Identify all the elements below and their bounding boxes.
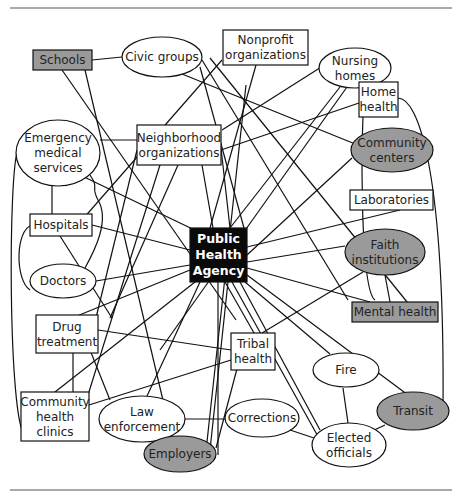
node-schools: Schools: [33, 50, 92, 70]
chc-label: health: [36, 410, 74, 424]
node-homehealth: Homehealth: [359, 82, 398, 117]
faith-label: institutions: [352, 253, 419, 267]
neighborhood-label: organizations: [139, 146, 220, 160]
node-ems: Emergencymedicalservices: [16, 120, 100, 186]
law-label: enforcement: [104, 420, 181, 434]
corrections-label: Corrections: [228, 411, 296, 425]
mental-label: Mental health: [354, 305, 437, 319]
node-corrections: Corrections: [225, 399, 299, 437]
network-diagram: SchoolsCivic groupsNonprofitorganization…: [0, 0, 464, 499]
edge-19: [93, 150, 137, 330]
neighborhood-label: Neighborhood: [137, 131, 222, 145]
node-transit: Transit: [377, 392, 449, 430]
node-drug: Drugtreatment: [36, 315, 98, 353]
node-commcenters: Communitycenters: [351, 128, 433, 172]
nonprofit-label: organizations: [225, 48, 306, 62]
node-fire: Fire: [313, 353, 379, 387]
node-labs: Laboratories: [350, 190, 433, 210]
tribal-label: Tribal: [236, 337, 269, 351]
node-civic: Civic groups: [122, 37, 202, 77]
schools-label: Schools: [39, 53, 85, 67]
node-nonprofit: Nonprofitorganizations: [223, 30, 308, 65]
pha-label: Public: [197, 231, 240, 246]
edge-10: [230, 87, 340, 228]
node-mental: Mental health: [352, 302, 438, 322]
edge-13: [80, 175, 205, 235]
elected-label: officials: [326, 446, 372, 460]
fire-label: Fire: [335, 363, 356, 377]
nursing-label: homes: [335, 69, 375, 83]
homehealth-label: Home: [361, 85, 396, 99]
edge-29: [247, 246, 345, 262]
labs-label: Laboratories: [354, 193, 429, 207]
hospitals-label: Hospitals: [33, 218, 88, 232]
ems-label: Emergency: [24, 131, 92, 145]
transit-label: Transit: [392, 404, 433, 418]
civic-label: Civic groups: [125, 50, 199, 64]
node-chc: Communityhealthclinics: [20, 392, 89, 441]
doctors-label: Doctors: [40, 274, 86, 288]
employers-label: Employers: [148, 447, 211, 461]
ems-label: medical: [34, 146, 81, 160]
node-hospitals: Hospitals: [30, 214, 92, 236]
node-doctors: Doctors: [30, 264, 96, 298]
elected-label: Elected: [327, 431, 372, 445]
commcenters-label: centers: [370, 151, 415, 165]
edge-45: [98, 330, 231, 350]
edge-32: [96, 265, 190, 281]
node-tribal: Tribalhealth: [231, 333, 275, 370]
commcenters-label: Community: [357, 136, 426, 150]
homehealth-label: health: [360, 100, 398, 114]
node-faith: Faithinstitutions: [345, 229, 425, 275]
chc-label: Community: [20, 395, 89, 409]
tribal-label: health: [234, 352, 272, 366]
edge-2: [85, 70, 170, 430]
law-label: Law: [130, 405, 154, 419]
nursing-label: Nursing: [332, 54, 378, 68]
node-pha: PublicHealthAgency: [190, 228, 247, 282]
ems-label: services: [33, 161, 82, 175]
edge-0: [92, 57, 122, 60]
drug-label: Drug: [52, 320, 81, 334]
pha-label: Health: [195, 247, 242, 262]
node-elected: Electedofficials: [312, 423, 386, 467]
edge-36: [247, 268, 370, 302]
edge-52: [343, 388, 348, 423]
pha-label: Agency: [193, 263, 245, 278]
node-employers: Employers: [144, 436, 216, 472]
node-law: Lawenforcement: [99, 396, 185, 442]
edge-22: [202, 165, 213, 228]
drug-label: treatment: [37, 335, 97, 349]
nonprofit-label: Nonprofit: [238, 33, 294, 47]
edge-26: [92, 225, 190, 250]
chc-label: clinics: [36, 425, 73, 439]
faith-label: Faith: [371, 238, 400, 252]
node-neighborhood: Neighborhoodorganizations: [137, 125, 222, 165]
